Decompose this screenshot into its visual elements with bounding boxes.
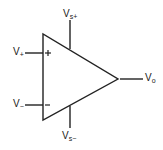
v-minus-label: V− <box>13 99 24 110</box>
op-amp-triangle <box>43 34 118 120</box>
vs-plus-label: Vs+ <box>63 9 77 20</box>
vs-minus-label: Vs− <box>62 131 76 142</box>
v-plus-label: V+ <box>13 47 24 58</box>
op-amp-diagram <box>0 0 163 150</box>
vo-label: Vo <box>145 73 156 84</box>
